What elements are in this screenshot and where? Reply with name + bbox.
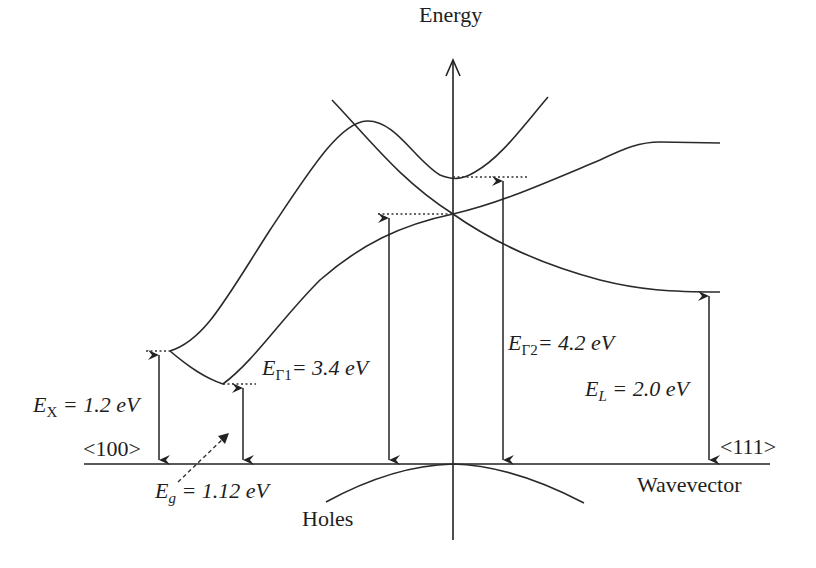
egamma2-symbol: E [508,330,521,355]
direction-100-text: <100> [83,436,141,461]
ex-annotation: EX = 1.2 eV [33,392,139,421]
eg-pointer-arrow [178,433,229,482]
direction-100-label: <100> [83,436,141,462]
eg-symbol: E [155,478,168,503]
conduction-band-lower [170,142,720,384]
el-symbol: E [585,376,598,401]
direction-111-label: <111> [720,434,776,460]
el-value: = 2.0 eV [612,376,689,401]
eg-annotation: Eg = 1.12 eV [155,478,269,507]
valence-band-holes [326,464,584,503]
direction-111-text: <111> [720,434,776,459]
band-diagram: Energy Wavevector <100> <111> Holes EX =… [0,0,816,568]
egamma2-value: = 4.2 eV [538,330,615,355]
el-subscript: L [598,388,606,404]
egamma1-symbol: E [262,355,275,380]
egamma2-annotation: EΓ2= 4.2 eV [508,330,614,359]
ex-subscript: X [46,404,57,420]
holes-label: Holes [302,506,353,532]
holes-text: Holes [302,506,353,531]
el-annotation: EL = 2.0 eV [585,376,689,405]
egamma1-annotation: EΓ1= 3.4 eV [262,355,368,384]
energy-label-text: Energy [419,2,482,27]
egamma1-subscript: Γ1 [275,367,291,383]
eg-subscript: g [168,490,176,506]
wavevector-label-text: Wavevector [637,472,742,497]
ex-value: = 1.2 eV [63,392,140,417]
ex-symbol: E [33,392,46,417]
eg-value: = 1.12 eV [181,478,269,503]
conduction-band-upper [170,97,548,351]
egamma2-subscript: Γ2 [521,342,537,358]
wavevector-axis-label: Wavevector [637,472,742,498]
energy-axis [446,60,460,540]
egamma1-value: = 3.4 eV [292,355,369,380]
energy-axis-label: Energy [419,2,482,28]
